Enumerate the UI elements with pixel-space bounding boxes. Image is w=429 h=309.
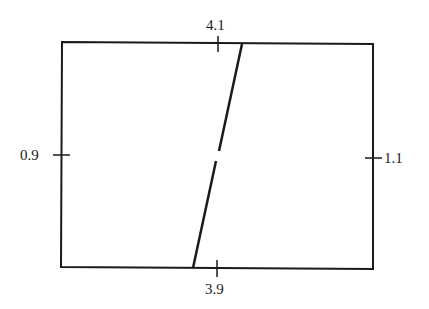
rectangle-outline [61,42,373,269]
diagram-canvas [0,0,429,309]
slanted-line-lower [193,161,216,268]
bottom-label: 3.9 [205,282,224,297]
left-label: 0.9 [20,148,39,163]
right-label: 1.1 [384,151,403,166]
top-label: 4.1 [206,18,225,33]
slanted-line-upper [219,44,242,151]
